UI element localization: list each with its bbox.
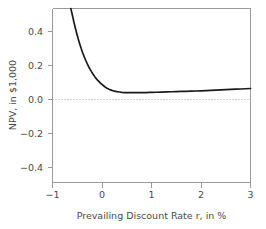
- y-tick-label-3: −0.2: [20, 128, 43, 139]
- y-tick-label-0: 0.4: [28, 26, 43, 37]
- npv-line-chart: 0.4 0.2 0.0 −0.2 −0.4 −1 0 1 2 3 Prevail…: [0, 0, 266, 229]
- x-tick-label-1: 0: [99, 189, 105, 200]
- x-tick-label-3: 2: [198, 189, 204, 200]
- y-tick-label-4: −0.4: [20, 162, 43, 173]
- chart-figure: 0.4 0.2 0.0 −0.2 −0.4 −1 0 1 2 3 Prevail…: [0, 0, 266, 229]
- y-tick-label-1: 0.2: [28, 60, 43, 71]
- x-axis-title: Prevailing Discount Rate r, in %: [77, 210, 227, 221]
- y-axis-title: NPV, in $1,000: [7, 60, 18, 130]
- x-tick-label-2: 1: [148, 189, 154, 200]
- x-tick-label-0: −1: [45, 189, 59, 200]
- x-tick-label-4: 3: [247, 189, 253, 200]
- y-tick-label-2: 0.0: [28, 94, 43, 105]
